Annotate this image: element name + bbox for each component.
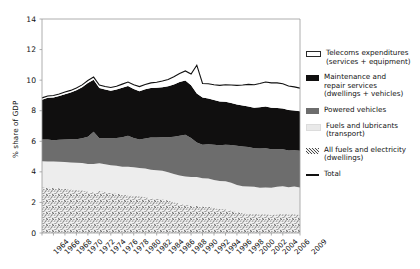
legend-label-total: Total — [324, 170, 341, 179]
legend-swatch-all-fuels-electricity-icon — [306, 148, 319, 154]
chart-legend: Telecoms expenditures (services + equipm… — [306, 49, 420, 186]
legend-swatch-fuels-lubricants-icon — [306, 124, 321, 131]
legend-label-powered-vehicles: Powered vehicles — [324, 106, 386, 115]
legend-swatch-telecoms-icon — [306, 51, 321, 57]
legend-swatch-powered-vehicles-icon — [306, 108, 319, 114]
legend-label-telecoms: Telecoms expenditures (services + equipm… — [326, 49, 411, 66]
legend-item-total: Total — [306, 170, 420, 179]
legend-item-fuels-lubricants: Fuels and lubricants (transport) — [306, 122, 420, 139]
legend-label-fuels-lubricants: Fuels and lubricants (transport) — [326, 122, 398, 139]
legend-item-powered-vehicles: Powered vehicles — [306, 106, 420, 115]
legend-item-maintenance: Maintenance and repair services (dwellin… — [306, 73, 420, 99]
legend-swatch-maintenance-icon — [306, 75, 319, 81]
legend-swatch-total-icon — [306, 172, 319, 178]
legend-item-telecoms: Telecoms expenditures (services + equipm… — [306, 49, 420, 66]
legend-label-all-fuels-electricity: All fuels and electricity (dwellings) — [324, 146, 406, 163]
legend-label-maintenance: Maintenance and repair services (dwellin… — [324, 73, 403, 99]
legend-item-all-fuels-electricity: All fuels and electricity (dwellings) — [306, 146, 420, 163]
chart-figure: % share of GDP 02468101214 1964196619681… — [0, 0, 420, 269]
